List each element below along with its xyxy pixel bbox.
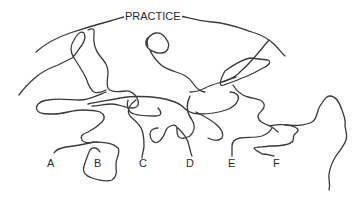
strand-to-f xyxy=(254,125,298,157)
start-label-a: A xyxy=(47,158,54,169)
tangled-lines-diagram: PRACTICE A B C D E F xyxy=(0,0,364,202)
strand-right-loop xyxy=(285,96,347,190)
strand-left-loop xyxy=(37,92,106,143)
strand-to-d xyxy=(150,96,194,156)
strand-top-right-c xyxy=(222,77,278,132)
start-label-f: F xyxy=(273,158,280,169)
strand-d-side xyxy=(196,112,223,140)
strand-main-left xyxy=(19,32,106,95)
strand-top-right-b xyxy=(220,58,269,85)
practice-line-right xyxy=(180,16,285,56)
strand-middle-horizontal xyxy=(88,92,239,114)
practice-label: PRACTICE xyxy=(124,11,182,22)
strand-to-a xyxy=(54,142,94,153)
start-label-c: C xyxy=(139,158,147,169)
start-label-b: B xyxy=(94,158,101,169)
start-label-d: D xyxy=(186,158,194,169)
strand-middle-loop xyxy=(146,33,205,92)
start-label-e: E xyxy=(228,158,235,169)
strand-to-c xyxy=(128,100,144,158)
strand-top-right-a xyxy=(190,40,269,92)
strand-to-e xyxy=(232,128,272,156)
lines-svg xyxy=(0,0,364,202)
practice-line-left xyxy=(36,16,128,52)
